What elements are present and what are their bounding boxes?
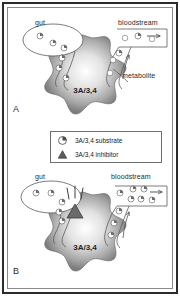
bloodstream-label-a: bloodstream xyxy=(118,19,158,26)
panel-letter-b: B xyxy=(13,266,19,276)
gut-oval-b xyxy=(21,181,81,213)
enzyme-label-b: 3A/3,4 xyxy=(73,243,97,252)
panel-b-graphic: 3A/3,4 xyxy=(7,168,173,289)
legend-item-substrate: 3A/3,4 substrate xyxy=(57,134,122,147)
legend-item-inhibitor: 3A/3,4 inhibitor xyxy=(57,148,118,161)
inhibitor-triangle-icon xyxy=(57,149,68,160)
panel-letter-a: A xyxy=(13,104,19,114)
substrate-circle-icon xyxy=(57,135,68,146)
metabolite-label-a: metabolite xyxy=(122,72,155,79)
figure-root: 3A/3,4 xyxy=(0,0,180,296)
enzyme-label-a: 3A/3,4 xyxy=(73,86,97,95)
panel-a: 3A/3,4 xyxy=(7,7,173,131)
bloodstream-label-b: bloodstream xyxy=(111,173,151,180)
gut-label-a: gut xyxy=(35,19,45,26)
legend-label-inhibitor: 3A/3,4 inhibitor xyxy=(75,151,118,158)
legend-box: 3A/3,4 substrate 3A/3,4 inhibitor xyxy=(50,131,162,163)
panel-b: 3A/3,4 xyxy=(7,168,173,289)
gut-label-b: gut xyxy=(35,173,45,180)
legend-label-substrate: 3A/3,4 substrate xyxy=(75,137,122,144)
